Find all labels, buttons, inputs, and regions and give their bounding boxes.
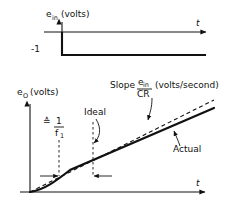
input-tick-label-minus-one: -1 bbox=[31, 44, 40, 54]
input-y-axis-label-units: (volts) bbox=[61, 9, 90, 19]
integrator-step-response-figure: e in (volts) t -1 e O (volts) bbox=[0, 0, 241, 211]
slope-units-label: (volts/second) bbox=[155, 80, 219, 90]
output-y-axis-label-units: (volts) bbox=[30, 87, 59, 97]
dimension-denominator-sub: 1 bbox=[60, 132, 64, 140]
dimension-numerator: 1 bbox=[56, 116, 62, 126]
output-y-axis-label-sub: O bbox=[23, 92, 28, 100]
ideal-leader-line bbox=[94, 119, 100, 143]
slope-denominator: CR bbox=[137, 89, 150, 99]
output-x-axis-label: t bbox=[196, 178, 200, 188]
slope-annotation-word: Slope bbox=[110, 80, 135, 90]
input-x-axis-label: t bbox=[196, 18, 200, 28]
panel-output: e O (volts) t Slope e in CR (volts/secon… bbox=[17, 77, 219, 192]
input-y-axis-label-sub: in bbox=[52, 14, 58, 22]
ideal-label: Ideal bbox=[84, 107, 106, 117]
input-step-waveform bbox=[62, 32, 206, 55]
slope-leader-line bbox=[148, 98, 152, 120]
dimension-symbol: ≙ bbox=[43, 116, 51, 126]
panel-input: e in (volts) t -1 bbox=[31, 9, 206, 56]
slope-numerator-sub: in bbox=[143, 81, 149, 89]
dimension-denominator-main: f bbox=[55, 128, 59, 138]
actual-label: Actual bbox=[173, 144, 201, 154]
figure-root: e in (volts) t -1 e O (volts) bbox=[0, 0, 241, 211]
